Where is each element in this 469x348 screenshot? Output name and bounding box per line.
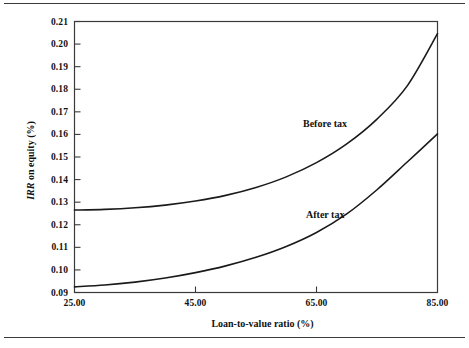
x-tick-label: 25.00 <box>64 298 86 308</box>
series-label-before-tax: Before tax <box>303 118 347 129</box>
y-tick-label: 0.10 <box>30 265 68 275</box>
y-tick-label: 0.20 <box>30 39 68 49</box>
y-tick-label: 0.09 <box>30 288 68 298</box>
y-axis-title-italic: IRR <box>25 183 36 200</box>
figure-container: 0.090.100.110.120.130.140.150.160.170.18… <box>0 0 469 348</box>
y-tick-label: 0.16 <box>30 129 68 139</box>
plot-frame <box>75 22 438 293</box>
data-series-lines <box>75 34 438 287</box>
y-axis-title: IRR on equity (%) <box>25 91 36 231</box>
series-label-after-tax: After tax <box>306 209 344 220</box>
axis-ticks <box>75 22 317 293</box>
y-tick-label: 0.18 <box>30 84 68 94</box>
x-tick-label: 65.00 <box>306 298 328 308</box>
y-tick-label: 0.14 <box>30 175 68 185</box>
series-line-after-tax <box>75 134 438 287</box>
chart-plot-area <box>0 0 469 348</box>
y-tick-label: 0.13 <box>30 197 68 207</box>
x-tick-label: 85.00 <box>427 298 449 308</box>
y-tick-label: 0.11 <box>30 242 68 252</box>
y-tick-label: 0.17 <box>30 107 68 117</box>
y-tick-label: 0.12 <box>30 220 68 230</box>
y-axis-title-rest: on equity (%) <box>25 121 36 182</box>
y-tick-label: 0.21 <box>30 17 68 27</box>
y-tick-label: 0.19 <box>30 62 68 72</box>
y-tick-label: 0.15 <box>30 152 68 162</box>
x-tick-label: 45.00 <box>185 298 207 308</box>
x-axis-title: Loan-to-value ratio (%) <box>211 318 313 329</box>
